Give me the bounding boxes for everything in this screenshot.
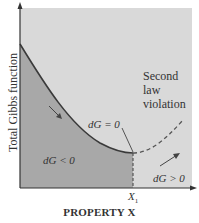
x-axis-arrow-icon <box>190 186 197 191</box>
equilibrium-label: dG = 0 <box>88 118 120 130</box>
y-axis-arrow-icon <box>18 2 23 9</box>
x-axis-label: PROPERTY X <box>0 206 199 218</box>
x1-subscript: 1 <box>135 197 139 205</box>
annotation-line-3: violation <box>143 97 186 111</box>
annotation-line-2: law <box>143 83 186 97</box>
annotation-line-1: Second <box>143 69 186 83</box>
x1-marker: X1 <box>128 190 138 205</box>
gibbs-diagram <box>0 0 199 223</box>
decreasing-label: dG < 0 <box>43 154 75 166</box>
y-axis-label: Total Gibbs function <box>6 28 21 178</box>
x1-symbol: X <box>128 190 135 202</box>
second-law-violation-annotation: Second law violation <box>143 69 186 111</box>
increasing-label: dG > 0 <box>153 172 185 184</box>
